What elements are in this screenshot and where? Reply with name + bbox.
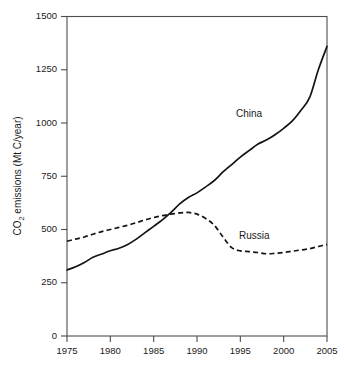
x-tick-label: 1980: [100, 345, 121, 356]
x-tick-label: 1990: [186, 345, 207, 356]
china-series-label: China: [236, 108, 263, 119]
y-tick-label: 0: [52, 330, 57, 341]
chart-figure: 0250500750100012501500 19751980198519901…: [0, 0, 346, 377]
x-tick-label: 2005: [316, 345, 337, 356]
co2-emissions-line-chart: 0250500750100012501500 19751980198519901…: [0, 0, 346, 377]
russia-series-label: Russia: [239, 230, 270, 241]
y-tick-label: 500: [41, 223, 57, 234]
x-tick-label: 1975: [56, 345, 77, 356]
x-tick-label: 2000: [273, 345, 294, 356]
y-tick-label: 750: [41, 170, 57, 181]
y-tick-label: 1250: [36, 63, 57, 74]
x-tick-label: 1985: [143, 345, 164, 356]
x-tick-label: 1995: [230, 345, 251, 356]
y-tick-label: 1000: [36, 117, 57, 128]
chart-background: [0, 0, 346, 377]
y-tick-label: 250: [41, 276, 57, 287]
y-tick-label: 1500: [36, 10, 57, 21]
